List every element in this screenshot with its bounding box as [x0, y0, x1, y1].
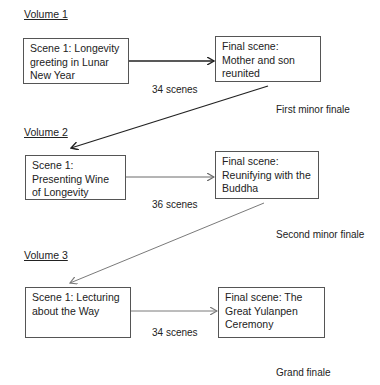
- transition-arrow-1-2: [71, 86, 268, 148]
- grand-finale-label: Grand finale: [276, 367, 330, 378]
- volume-3-final-scene-box: Final scene: The Great Yulanpen Ceremony: [218, 287, 325, 338]
- volume-2-scene-count: 36 scenes: [152, 199, 198, 210]
- volume-1-first-scene-box: Scene 1: Longevity greeting in Lunar New…: [23, 38, 129, 84]
- volume-2-finale-label: Second minor finale: [276, 229, 364, 240]
- volume-1-final-scene-box: Final scene: Mother and son reunited: [215, 36, 321, 82]
- volume-3-scene-count: 34 scenes: [152, 327, 198, 338]
- volume-1-finale-label: First minor finale: [276, 104, 350, 115]
- volume-3-label: Volume 3: [24, 249, 68, 261]
- volume-1-label: Volume 1: [24, 8, 68, 20]
- volume-2-label: Volume 2: [24, 126, 68, 138]
- volume-3-first-scene-box: Scene 1: Lecturing about the Way: [25, 287, 131, 338]
- volume-2-first-scene-box: Scene 1: Presenting Wine of Longevity: [25, 155, 126, 200]
- volume-2-final-scene-box: Final scene: Reunifying with the Buddha: [215, 151, 319, 199]
- volume-1-scene-count: 34 scenes: [152, 84, 198, 95]
- transition-arrow-2-3: [70, 203, 264, 283]
